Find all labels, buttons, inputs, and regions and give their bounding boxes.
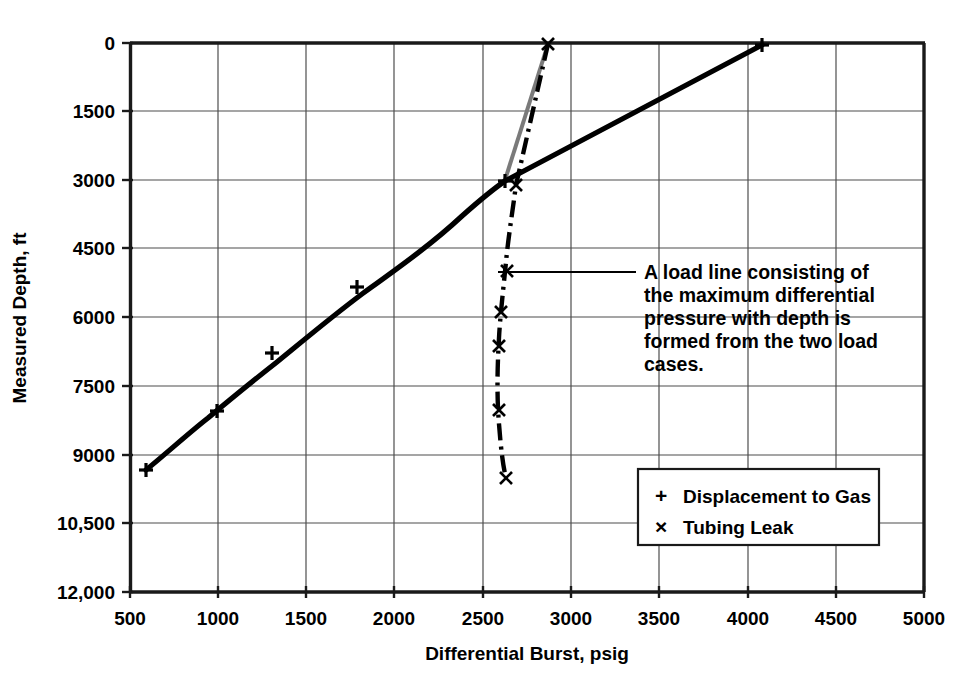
- x-tick-label: 3000: [550, 608, 592, 629]
- y-tick-label: 1500: [73, 101, 115, 122]
- annotation-line: formed from the two load: [644, 330, 878, 352]
- x-tick-label: 500: [114, 608, 146, 629]
- x-tick-label: 1000: [197, 608, 239, 629]
- annotation-line: A load line consisting of: [644, 261, 869, 283]
- x-tick-label: 3500: [638, 608, 680, 629]
- y-tick-label: 3000: [73, 170, 115, 191]
- x-tick-label: 2500: [462, 608, 504, 629]
- cross-marker-icon: ×: [655, 515, 667, 538]
- x-axis-title: Differential Burst, psig: [425, 643, 629, 664]
- legend-entry-displacement-to-gas: + Displacement to Gas: [655, 484, 871, 507]
- y-tick-label: 12,000: [57, 582, 115, 603]
- annotation-line: the maximum differential: [644, 284, 875, 306]
- y-tick-label: 9000: [73, 445, 115, 466]
- plus-marker-icon: +: [655, 484, 667, 507]
- y-tick-label: 0: [104, 33, 115, 54]
- legend-label: Tubing Leak: [683, 517, 794, 538]
- annotation-line: cases.: [644, 353, 704, 375]
- y-tick-label: 10,500: [57, 513, 115, 534]
- x-tick-label: 1500: [285, 608, 327, 629]
- legend: + Displacement to Gas × Tubing Leak: [638, 469, 879, 545]
- x-tick-label: 4500: [815, 608, 857, 629]
- differential-burst-vs-depth-chart: 0 1500 3000 4500 6000 7500 9000 10,500 1…: [0, 0, 970, 690]
- y-axis-title: Measured Depth, ft: [9, 232, 30, 404]
- annotation-line: pressure with depth is: [644, 307, 851, 329]
- legend-label: Displacement to Gas: [683, 486, 871, 507]
- y-tick-label: 6000: [73, 307, 115, 328]
- x-tick-label: 5000: [903, 608, 945, 629]
- y-tick-label: 7500: [73, 376, 115, 397]
- y-tick-label: 4500: [73, 238, 115, 259]
- x-tick-label: 4000: [727, 608, 769, 629]
- x-tick-label: 2000: [373, 608, 415, 629]
